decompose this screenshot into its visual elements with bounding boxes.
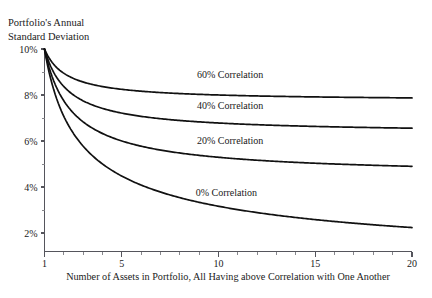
chart-title-line2: Standard Deviation [8,31,90,42]
series-annotations: 60% Correlation40% Correlation20% Correl… [196,69,264,197]
curve-0.4 [45,49,413,128]
portfolio-std-deviation-chart: Portfolio's Annual Standard Deviation 2%… [0,0,432,298]
chart-figure: Portfolio's Annual Standard Deviation 2%… [0,0,432,298]
series-label-0: 0% Correlation [196,187,257,198]
y-tick-label: 2% [24,228,37,239]
y-axis-tick-labels: 2%4%6%8%10% [19,44,37,239]
x-axis-ticks [45,252,413,257]
series-label-0.6: 60% Correlation [197,69,263,80]
chart-title-line1: Portfolio's Annual [8,17,84,28]
series-label-0.2: 20% Correlation [197,135,263,146]
y-tick-label: 10% [19,44,37,55]
y-tick-label: 8% [24,90,37,101]
x-tick-label: 15 [310,258,320,269]
x-tick-label: 1 [42,258,47,269]
x-tick-label: 5 [119,258,124,269]
y-tick-label: 4% [24,182,37,193]
x-axis-tick-labels: 15101520 [42,258,417,269]
series-label-0.4: 40% Correlation [197,100,263,111]
x-axis-title: Number of Assets in Portfolio, All Havin… [66,271,390,282]
x-tick-label: 10 [214,258,224,269]
y-tick-label: 6% [24,136,37,147]
x-tick-label: 20 [407,258,417,269]
y-axis-ticks [41,49,45,233]
